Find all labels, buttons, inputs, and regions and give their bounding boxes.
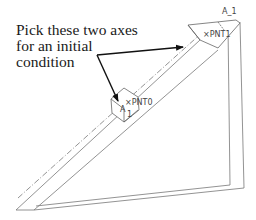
axis-label-top: A_1 <box>222 7 237 16</box>
annotation-line-3: condition <box>16 54 136 70</box>
axis-label-mid-b: 1 <box>127 110 132 119</box>
point-label-top: ×PNT1 <box>203 30 231 39</box>
axis-label-mid-a: A <box>120 105 126 114</box>
annotation-line-2: for an initial <box>16 38 136 54</box>
annotation-line-1: Pick these two axes <box>16 22 136 38</box>
point-label-mid: ×PNT0 <box>125 98 153 107</box>
annotation-text: Pick these two axes for an initial condi… <box>16 22 136 70</box>
